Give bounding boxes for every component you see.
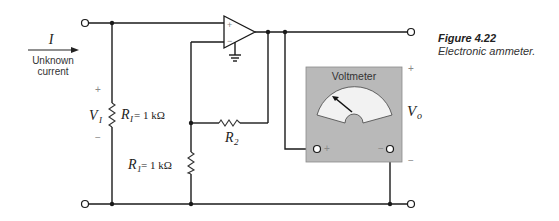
vi-subscript: I (98, 115, 103, 125)
vi-plus-label: + (95, 84, 101, 95)
resistor-r2 (219, 120, 240, 126)
junction-dot (110, 202, 114, 206)
current-arrow-icon (28, 47, 79, 53)
current-label-line1: Unknown (32, 55, 74, 66)
voltmeter-minus-label: − (378, 143, 384, 154)
vo-subscript: o (417, 110, 422, 121)
voltmeter-title: Voltmeter (332, 70, 377, 82)
ri-value: = 1 kΩ (134, 109, 165, 121)
junction-dot (189, 121, 193, 125)
junction-dot (283, 30, 287, 34)
input-terminal-top (82, 20, 89, 27)
junction-dot (189, 202, 193, 206)
r2-subscript: 2 (234, 137, 239, 147)
junction-dot (266, 30, 270, 34)
r2-symbol: R (224, 130, 234, 145)
r1-value: = 1 kΩ (141, 159, 172, 171)
vo-plus-label: + (408, 63, 414, 74)
op-amp-plus-label: + (227, 20, 232, 30)
output-terminal-bottom (408, 201, 415, 208)
figure-number: Figure 4.22 (438, 32, 496, 44)
electronic-ammeter-circuit: + − I Unknown current + V I − R I = 1 kΩ… (0, 0, 559, 221)
figure-caption: Electronic ammeter. (438, 45, 535, 57)
op-amp-minus-label: − (227, 36, 232, 46)
current-symbol: I (48, 32, 55, 47)
ri-symbol: R (120, 107, 130, 122)
voltmeter-plus-terminal (314, 146, 321, 153)
output-terminal-top (408, 29, 415, 36)
resistor-r1 (188, 152, 194, 174)
r1-symbol: R (127, 157, 137, 172)
vi-symbol: V (89, 108, 99, 123)
junction-dot (388, 202, 392, 206)
current-label-line2: current (37, 66, 68, 77)
voltmeter-minus-terminal (387, 146, 394, 153)
vi-minus-label: − (95, 132, 101, 143)
input-terminal-bottom (82, 201, 89, 208)
voltmeter: Voltmeter + − (306, 67, 402, 162)
resistor-ri (109, 103, 115, 127)
vo-minus-label: − (408, 155, 414, 166)
voltmeter-plus-label: + (324, 143, 330, 154)
junction-dot (110, 21, 114, 25)
